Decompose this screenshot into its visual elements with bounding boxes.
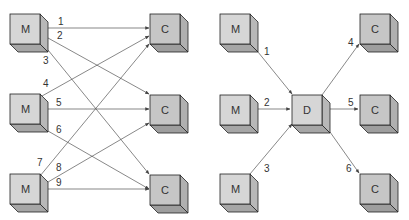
edge-label-5: 5 [56, 97, 62, 108]
customer-node-1: C [150, 14, 188, 52]
manufacturer-node-1: M [10, 14, 48, 52]
edge-label-5: 5 [348, 97, 354, 108]
customer-node-3: C [150, 175, 188, 213]
node-label: C [371, 183, 379, 195]
customer-node-2: C [360, 95, 398, 133]
edge-6 [330, 132, 359, 173]
node-label: M [21, 183, 30, 195]
edge-label-1: 1 [264, 46, 270, 57]
node-label: C [161, 23, 169, 35]
edge-8 [48, 123, 149, 182]
node-label: M [21, 103, 30, 115]
right-diagram: 1 2 3 4 5 6 M M M D C C [220, 14, 398, 212]
manufacturer-node-3: M [220, 174, 258, 212]
manufacturer-node-1: M [220, 14, 258, 52]
node-label: C [161, 104, 169, 116]
edge-label-4: 4 [348, 37, 354, 48]
edge-4 [42, 36, 149, 96]
edge-label-4: 4 [43, 78, 49, 89]
node-label: C [371, 104, 379, 116]
node-label: C [371, 23, 379, 35]
customer-node-1: C [360, 14, 398, 52]
edge-label-6: 6 [56, 124, 62, 135]
node-label: D [303, 104, 311, 116]
manufacturer-node-3: M [10, 174, 48, 212]
node-label: M [231, 104, 240, 116]
edge-label-1: 1 [58, 16, 64, 27]
edge-label-2: 2 [57, 30, 63, 41]
edge-label-3: 3 [264, 163, 270, 174]
node-label: M [231, 23, 240, 35]
distributor-node: D [292, 95, 330, 133]
edge-label-6: 6 [346, 163, 352, 174]
node-label: C [161, 184, 169, 196]
manufacturer-node-2: M [10, 94, 48, 132]
distribution-diagram: 1 2 3 4 5 6 7 8 9 M M M C C [0, 0, 409, 220]
edge-4 [322, 44, 359, 95]
edge-3 [48, 50, 149, 174]
left-diagram: 1 2 3 4 5 6 7 8 9 M M M C C [10, 14, 188, 213]
node-label: M [231, 183, 240, 195]
node-label: M [21, 23, 30, 35]
edge-6 [48, 131, 149, 189]
edge-2 [48, 38, 149, 94]
edge-label-7: 7 [37, 157, 43, 168]
customer-node-3: C [360, 174, 398, 212]
edge-label-3: 3 [43, 55, 49, 66]
edge-label-9: 9 [56, 177, 62, 188]
manufacturer-node-2: M [220, 95, 258, 133]
edge-label-2: 2 [264, 97, 270, 108]
edge-label-8: 8 [56, 162, 62, 173]
edge-1 [258, 52, 292, 94]
customer-node-2: C [150, 95, 188, 133]
